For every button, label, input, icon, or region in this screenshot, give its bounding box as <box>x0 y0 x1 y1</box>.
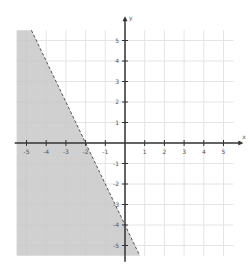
y-tick-label: -5 <box>113 242 119 249</box>
x-tick-label: -3 <box>63 148 69 155</box>
x-tick-label: 3 <box>182 148 186 155</box>
y-tick-label: -4 <box>113 221 119 228</box>
x-tick-label: 5 <box>222 148 226 155</box>
coordinate-plane: -5-4-3-2-11234554321-1-2-3-4-5 x y <box>0 0 252 266</box>
y-tick-label: -1 <box>113 160 119 167</box>
y-tick-label: -3 <box>113 201 119 208</box>
x-tick-label: -5 <box>24 148 30 155</box>
x-tick-label: 1 <box>143 148 147 155</box>
y-tick-label: 3 <box>115 78 119 85</box>
y-tick-label: -2 <box>113 180 119 187</box>
x-tick-label: 2 <box>162 148 166 155</box>
x-axis-label: x <box>242 133 246 140</box>
y-tick-label: 5 <box>115 37 119 44</box>
x-tick-label: -2 <box>83 148 89 155</box>
y-tick-label: 4 <box>115 57 119 64</box>
x-tick-label: 4 <box>202 148 206 155</box>
y-axis-label: y <box>129 14 133 22</box>
x-tick-label: -4 <box>43 148 49 155</box>
y-tick-label: 2 <box>115 98 119 105</box>
y-tick-label: 1 <box>115 119 119 126</box>
x-tick-label: -1 <box>102 148 108 155</box>
